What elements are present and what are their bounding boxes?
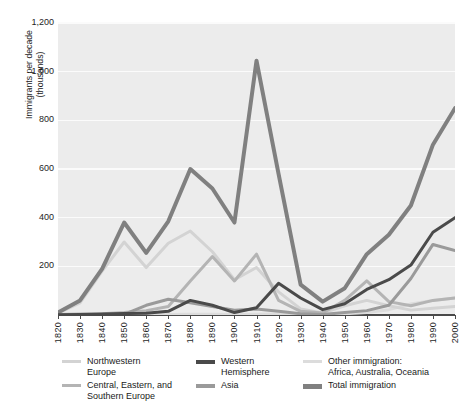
x-axis-tick-label: 1970 (384, 322, 394, 343)
series-lines (58, 23, 455, 315)
x-axis-tick-mark (323, 315, 324, 319)
x-axis-tick-mark (367, 315, 368, 319)
x-axis-tick-label: 1920 (274, 322, 284, 343)
x-axis-tick-label: 1880 (185, 322, 195, 343)
x-axis-tick-mark (279, 315, 280, 319)
x-axis-tick-mark (168, 315, 169, 319)
legend-swatch (196, 360, 215, 364)
x-axis-tick-mark (411, 315, 412, 319)
x-axis-tick-mark (345, 315, 346, 319)
x-axis-tick-mark (433, 315, 434, 319)
legend-item[interactable]: Total immigration (303, 380, 396, 391)
x-axis-tick-label: 1900 (229, 322, 239, 343)
legend-label: Other immigration: Africa, Australia, Oc… (328, 356, 429, 377)
x-axis-tick-label: 1850 (119, 322, 129, 343)
x-axis-tick-label: 1980 (406, 322, 416, 343)
legend-swatch (303, 384, 322, 389)
x-axis-tick-mark (190, 315, 191, 319)
legend-label: Northwestern Europe (87, 356, 141, 377)
x-axis-tick-label: 1960 (362, 322, 372, 343)
legend-label: Asia (221, 380, 239, 391)
legend-item[interactable]: Western Hemisphere (196, 356, 270, 377)
x-axis-tick-mark (257, 315, 258, 319)
legend-swatch (196, 384, 215, 388)
x-axis-tick-mark (389, 315, 390, 319)
series-line (58, 254, 455, 314)
x-axis-tick-label: 1930 (296, 322, 306, 343)
x-axis-tick-label: 1950 (340, 322, 350, 343)
x-axis-tick-mark (455, 315, 456, 319)
legend-item[interactable]: Asia (196, 380, 239, 391)
x-axis-tick-label: 1940 (318, 322, 328, 343)
x-axis-tick-label: 1830 (75, 322, 85, 343)
legend-label: Total immigration (328, 380, 396, 391)
legend-label: Western Hemisphere (221, 356, 270, 377)
x-axis-tick-label: 1860 (141, 322, 151, 343)
legend-item[interactable]: Northwestern Europe (62, 356, 141, 377)
x-axis-tick-label: 1990 (428, 322, 438, 343)
legend-item[interactable]: Central, Eastern, and Southern Europe (62, 380, 172, 401)
x-axis-tick-label: 1890 (207, 322, 217, 343)
legend-swatch (303, 360, 322, 363)
legend-label: Central, Eastern, and Southern Europe (87, 380, 172, 401)
x-axis-tick-label: 1840 (97, 322, 107, 343)
x-axis-tick-mark (146, 315, 147, 319)
x-axis-tick-mark (102, 315, 103, 319)
x-axis-tick-label: 1820 (53, 322, 63, 343)
legend-swatch (62, 360, 81, 363)
immigration-line-chart-figure: Immigration to the United States by regi… (0, 0, 468, 418)
series-line (58, 231, 455, 313)
x-axis-tick-label: 2000 (450, 322, 460, 343)
legend-item[interactable]: Other immigration: Africa, Australia, Oc… (303, 356, 429, 377)
x-axis-tick-mark (301, 315, 302, 319)
x-axis-tick-mark (124, 315, 125, 319)
x-axis-tick-mark (234, 315, 235, 319)
legend-swatch (62, 384, 81, 387)
chart-legend: Northwestern EuropeCentral, Eastern, and… (0, 356, 468, 418)
x-axis-tick-mark (212, 315, 213, 319)
x-axis-tick-label: 1910 (252, 322, 262, 343)
x-axis-tick-mark (80, 315, 81, 319)
x-axis-tick-label: 1870 (163, 322, 173, 343)
x-axis-tick-mark (58, 315, 59, 319)
